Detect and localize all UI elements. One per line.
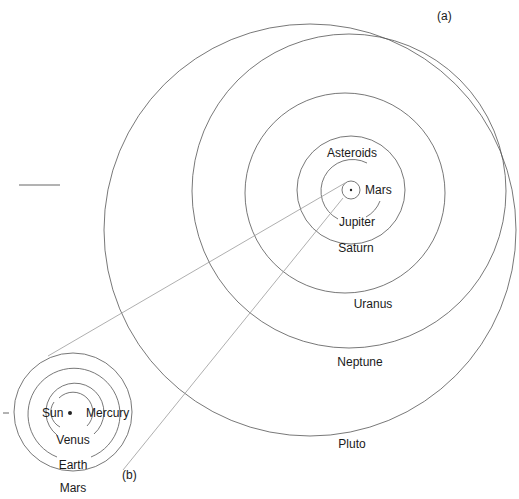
label-asteroids: Asteroids [327, 146, 377, 160]
sun-dot-outer [350, 189, 352, 191]
label-mars-outer: Mars [365, 183, 392, 197]
solar-system-diagram: Asteroids Mars Jupiter Saturn Uranus Nep… [0, 0, 519, 499]
panel-b-inner-system: Sun Mercury Venus Earth Mars (b) [14, 353, 137, 495]
label-neptune: Neptune [337, 355, 383, 369]
label-jupiter: Jupiter [339, 215, 375, 229]
label-sun: Sun [42, 406, 63, 420]
panel-b-label: (b) [122, 468, 137, 482]
orbit-pluto [104, 24, 516, 436]
orbit-uranus [245, 93, 445, 293]
label-earth: Earth [59, 458, 88, 472]
zoom-guide-line-upper [48, 183, 345, 356]
label-mercury: Mercury [86, 406, 129, 420]
label-pluto: Pluto [338, 437, 366, 451]
label-saturn: Saturn [338, 241, 373, 255]
sun-dot [68, 411, 72, 415]
panel-a-outer-system: Asteroids Mars Jupiter Saturn Uranus Nep… [104, 9, 516, 451]
label-mars-inner: Mars [60, 481, 87, 495]
label-venus: Venus [56, 433, 89, 447]
orbit-neptune [192, 34, 506, 348]
label-uranus: Uranus [354, 297, 393, 311]
zoom-guide-line-lower [123, 198, 343, 470]
panel-a-label: (a) [437, 9, 452, 23]
